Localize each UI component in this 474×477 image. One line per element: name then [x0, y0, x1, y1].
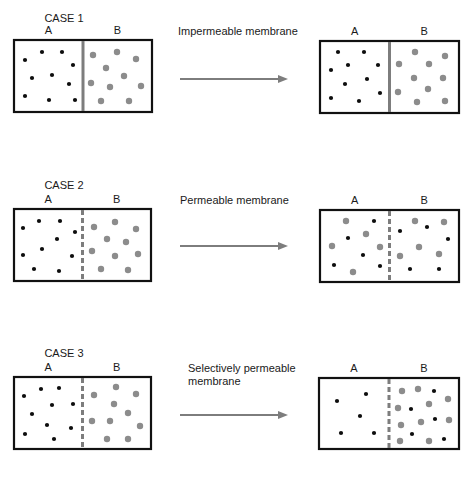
large-gray-particle: [112, 253, 118, 259]
large-gray-particle: [104, 436, 110, 442]
large-gray-particle: [416, 244, 422, 250]
large-gray-particle: [113, 384, 119, 390]
large-gray-particle: [445, 396, 451, 402]
small-black-particle: [55, 237, 59, 241]
small-black-particle: [23, 432, 27, 436]
small-black-particle: [40, 247, 44, 251]
small-black-particle: [21, 226, 25, 230]
large-gray-particle: [350, 269, 356, 275]
case-3-membrane-label-line-1: Selectively permeable: [188, 362, 296, 374]
compartment-a-label: A: [45, 193, 53, 205]
large-gray-particle: [89, 248, 95, 254]
small-black-particle: [398, 229, 402, 233]
large-gray-particle: [441, 219, 447, 225]
large-gray-particle: [125, 410, 131, 416]
small-black-particle: [52, 437, 56, 441]
small-black-particle: [45, 423, 49, 427]
case-3-left-box: AB: [14, 361, 151, 449]
case-1-right-box: AB: [320, 25, 459, 113]
large-gray-particle: [398, 422, 404, 428]
large-gray-particle: [415, 386, 421, 392]
small-black-particle: [71, 63, 75, 67]
large-gray-particle: [377, 244, 383, 250]
large-gray-particle: [91, 392, 97, 398]
small-black-particle: [364, 392, 368, 396]
small-black-particle: [346, 63, 350, 67]
large-gray-particle: [126, 98, 132, 104]
large-gray-particle: [363, 231, 369, 237]
small-black-particle: [432, 389, 436, 393]
large-gray-particle: [107, 84, 113, 90]
compartment-a-label: A: [351, 194, 359, 206]
large-gray-particle: [104, 236, 110, 242]
small-black-particle: [433, 417, 437, 421]
large-gray-particle: [440, 75, 446, 81]
large-gray-particle: [442, 98, 448, 104]
large-gray-particle: [343, 218, 349, 224]
case-3-right-box: AB: [319, 362, 459, 449]
large-gray-particle: [103, 65, 109, 71]
small-black-particle: [362, 50, 366, 54]
small-black-particle: [67, 82, 71, 86]
compartment-a-label: A: [350, 362, 358, 374]
large-gray-particle: [90, 52, 96, 58]
large-gray-particle: [426, 61, 432, 67]
small-black-particle: [410, 432, 414, 436]
large-gray-particle: [125, 267, 131, 273]
small-black-particle: [437, 267, 441, 271]
small-black-particle: [346, 236, 350, 240]
small-black-particle: [409, 407, 413, 411]
large-gray-particle: [397, 438, 403, 444]
large-gray-particle: [442, 53, 448, 59]
large-gray-particle: [89, 418, 95, 424]
large-gray-particle: [426, 438, 432, 444]
small-black-particle: [372, 431, 376, 435]
case-1-title: CASE 1: [44, 12, 83, 24]
compartment-a-label: A: [45, 361, 53, 373]
small-black-particle: [37, 219, 41, 223]
small-black-particle: [40, 50, 44, 54]
large-gray-particle: [98, 266, 104, 272]
small-black-particle: [361, 253, 365, 257]
small-black-particle: [365, 77, 369, 81]
case-1-arrow-icon: [180, 75, 288, 83]
small-black-particle: [21, 253, 25, 257]
small-black-particle: [408, 267, 412, 271]
small-black-particle: [47, 98, 51, 102]
large-gray-particle: [412, 218, 418, 224]
small-black-particle: [30, 412, 34, 416]
small-black-particle: [57, 269, 61, 273]
compartment-b-label: B: [420, 362, 427, 374]
small-black-particle: [57, 386, 61, 390]
large-gray-particle: [137, 423, 143, 429]
small-black-particle: [73, 230, 77, 234]
large-gray-particle: [133, 56, 139, 62]
small-black-particle: [442, 437, 446, 441]
small-black-particle: [70, 254, 74, 258]
large-gray-particle: [329, 243, 335, 249]
small-black-particle: [58, 219, 62, 223]
large-gray-particle: [412, 49, 418, 55]
small-black-particle: [339, 431, 343, 435]
large-gray-particle: [112, 219, 118, 225]
large-gray-particle: [133, 226, 139, 232]
large-gray-particle: [135, 251, 141, 257]
compartment-a-label: A: [351, 25, 359, 37]
case-2-right-box: AB: [320, 194, 459, 282]
large-gray-particle: [411, 75, 417, 81]
large-gray-particle: [111, 401, 117, 407]
small-black-particle: [336, 50, 340, 54]
large-gray-particle: [91, 224, 97, 230]
large-gray-particle: [395, 405, 401, 411]
case-3-title: CASE 3: [44, 347, 83, 359]
small-black-particle: [23, 58, 27, 62]
small-black-particle: [358, 414, 362, 418]
large-gray-particle: [446, 417, 452, 423]
small-black-particle: [50, 73, 54, 77]
large-gray-particle: [114, 49, 120, 55]
small-black-particle: [378, 91, 382, 95]
compartment-a-label: A: [45, 24, 53, 36]
case-1-membrane-label: Impermeable membrane: [178, 25, 298, 37]
small-black-particle: [73, 98, 77, 102]
large-gray-particle: [414, 99, 420, 105]
